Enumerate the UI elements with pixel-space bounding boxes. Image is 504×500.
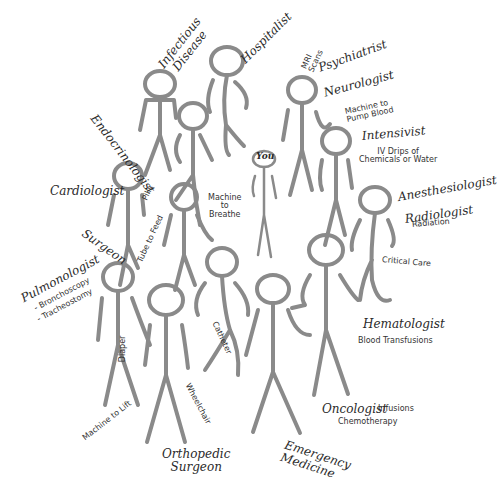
stick-figure-hospitalist (208, 47, 247, 155)
label-orthopedic-surgeon: Orthopedic Surgeon (162, 448, 230, 473)
label-diaper: Diaper (119, 336, 127, 363)
stick-figure-catheter (196, 248, 248, 375)
label-iv-drips: IV Drips of Chemicals or Water (359, 148, 437, 165)
stick-figure-you (253, 151, 276, 257)
label-machine-breathe: Machine to Breathe (208, 194, 242, 219)
stick-figure-anesthesiologist (352, 187, 394, 301)
label-line: Chemicals or Water (359, 156, 437, 164)
stick-figures (0, 0, 504, 500)
stick-figure-pulmonologist (98, 263, 150, 405)
label-blood-transfusions: Blood Transfusions (358, 337, 433, 345)
stick-figure-infectious-disease (140, 71, 176, 175)
label-line: Breathe (208, 211, 242, 219)
label-cardiologist: Cardiologist (50, 185, 124, 198)
stick-figure-feeding (164, 184, 212, 290)
label-infusions: Infusions (378, 405, 414, 413)
stick-figure-intensivist (320, 128, 352, 245)
label-line: Surgeon (162, 461, 230, 474)
label-line: Orthopedic (162, 448, 230, 461)
label-hematologist: Hematologist (363, 318, 445, 331)
label-you: You (256, 152, 274, 161)
care-team-diagram: Infectious Disease Hospitalist Endocrino… (0, 0, 504, 500)
stick-figure-orthopedic (145, 285, 188, 442)
stick-figure-oncologist (292, 235, 358, 395)
stick-figure-emergency (246, 275, 310, 433)
label-chemotherapy: Chemotherapy (338, 418, 397, 426)
